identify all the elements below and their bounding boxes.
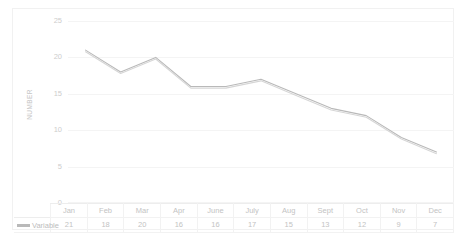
col-header-oct: Oct	[344, 204, 381, 218]
col-header-dec: Dec	[417, 204, 454, 218]
legend-variable: Variable	[14, 218, 51, 233]
cell-july: 17	[234, 218, 271, 233]
legend-line-swatch-icon	[17, 224, 30, 227]
table-row-variable: Variable 21 18 20 16 16 17 15 13 12 9 7	[14, 218, 454, 233]
col-header-aug: Aug	[270, 204, 307, 218]
cell-june: 16	[197, 218, 234, 233]
plot-area	[68, 21, 454, 203]
y-tick-20: 20	[36, 54, 62, 62]
cell-mar: 20	[124, 218, 161, 233]
y-axis-tick-labels: 25 20 15 10 5 0	[32, 21, 62, 203]
col-header-jan: Jan	[51, 204, 88, 218]
col-header-sept: Sept	[307, 204, 344, 218]
col-header-june: June	[197, 204, 234, 218]
cell-sept: 13	[307, 218, 344, 233]
cell-apr: 16	[161, 218, 198, 233]
col-header-nov: Nov	[380, 204, 417, 218]
data-table: Jan Feb Mar Apr June July Aug Sept Oct N…	[14, 203, 454, 233]
table-corner-cell	[14, 204, 51, 218]
col-header-july: July	[234, 204, 271, 218]
col-header-mar: Mar	[124, 204, 161, 218]
chart-frame: NUMBER 25 20 15 10 5 0 Jan Feb Mar Apr J…	[12, 8, 454, 230]
cell-dec: 7	[417, 218, 454, 233]
y-tick-10: 10	[36, 126, 62, 134]
col-header-feb: Feb	[87, 204, 124, 218]
y-tick-25: 25	[36, 17, 62, 25]
cell-nov: 9	[380, 218, 417, 233]
cell-oct: 12	[344, 218, 381, 233]
y-tick-5: 5	[36, 163, 62, 171]
cell-feb: 18	[87, 218, 124, 233]
cell-aug: 15	[270, 218, 307, 233]
legend-label: Variable	[32, 221, 59, 230]
table-row-headers: Jan Feb Mar Apr June July Aug Sept Oct N…	[14, 204, 454, 218]
y-tick-15: 15	[36, 90, 62, 98]
series-line-variable	[68, 21, 454, 203]
col-header-apr: Apr	[161, 204, 198, 218]
